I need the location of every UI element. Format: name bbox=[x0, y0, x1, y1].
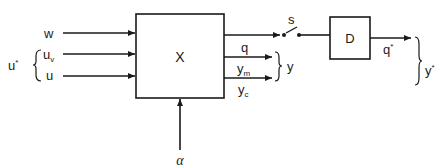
block-d-label: D bbox=[345, 31, 354, 46]
output-q-star: q* bbox=[370, 38, 411, 57]
input-u-label: u bbox=[46, 68, 53, 83]
output-yc-label: yc bbox=[238, 82, 249, 99]
alpha-label: α bbox=[176, 153, 184, 167]
input-uv-label: uv bbox=[43, 47, 54, 64]
input-u: u bbox=[46, 68, 135, 83]
output-q: q bbox=[224, 40, 272, 57]
block-x: X bbox=[136, 14, 224, 98]
input-alpha: α bbox=[176, 99, 184, 167]
u-star-label: u* bbox=[8, 58, 18, 73]
block-x-label: X bbox=[175, 49, 185, 65]
output-ym: ym bbox=[224, 61, 272, 78]
q-star-label: q* bbox=[383, 42, 393, 57]
switch-label: s bbox=[288, 12, 295, 27]
output-q-label: q bbox=[241, 40, 248, 55]
u-star-brace: u* bbox=[8, 50, 41, 81]
y-star-label: y* bbox=[425, 63, 435, 78]
output-yc: yc bbox=[238, 82, 249, 99]
input-w: w bbox=[43, 26, 135, 41]
input-uv: uv bbox=[43, 47, 135, 64]
block-diagram: X w uv u u* q ym yc y s bbox=[0, 0, 444, 167]
input-w-label: w bbox=[43, 26, 54, 41]
y-star-brace: y* bbox=[415, 37, 435, 85]
y-brace: y bbox=[275, 52, 294, 81]
switch-s: s bbox=[282, 12, 330, 37]
block-d: D bbox=[330, 17, 370, 59]
y-label: y bbox=[287, 59, 294, 74]
output-ym-label: ym bbox=[237, 61, 251, 78]
